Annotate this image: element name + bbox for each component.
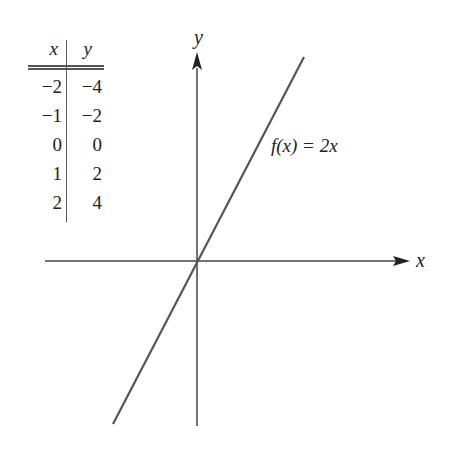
table-header-y: y (84, 38, 92, 60)
table-row: 1 2 (28, 163, 106, 187)
x-axis-label: x (416, 249, 425, 272)
table-cell-x: −1 (42, 105, 62, 127)
table-cell-x: 2 (53, 192, 63, 214)
function-label: f(x) = 2x (271, 135, 338, 157)
table-cell-x: −2 (42, 76, 62, 98)
table-cell-x: 0 (53, 134, 63, 156)
table-cell-y: 4 (93, 192, 103, 214)
y-axis-arrow-icon (192, 52, 202, 70)
table-row: 2 4 (28, 192, 106, 216)
table-cell-y: −2 (82, 105, 102, 127)
table-row: −2 −4 (28, 76, 106, 100)
table-cell-y: −4 (82, 76, 102, 98)
table-cell-y: 0 (93, 134, 103, 156)
table-row: −1 −2 (28, 105, 106, 129)
function-line (113, 57, 304, 424)
table-header-row: x y (28, 38, 106, 62)
table-cell-y: 2 (93, 163, 103, 185)
y-axis-label: y (194, 26, 203, 49)
table-cell-x: 1 (53, 163, 63, 185)
table-header-x: x (50, 38, 58, 60)
table-row: 0 0 (28, 134, 106, 158)
